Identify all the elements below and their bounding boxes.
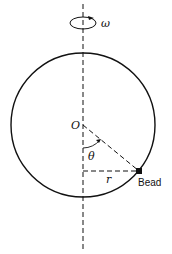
bead-label: Bead [138, 177, 161, 188]
bead-hoop-diagram: ω O θ r Bead [0, 0, 172, 254]
omega-label: ω [101, 17, 110, 30]
center-label: O [71, 119, 80, 132]
theta-arrowhead-icon [96, 139, 101, 143]
r-label: r [106, 173, 112, 186]
theta-label: θ [88, 150, 95, 163]
radius-line [83, 125, 139, 171]
bead-marker [136, 168, 142, 174]
